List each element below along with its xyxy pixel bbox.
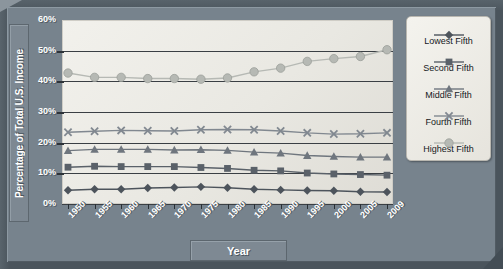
series-fourth-fifth	[64, 126, 390, 138]
series-layer	[62, 20, 393, 204]
legend-item-lowest-fifth[interactable]: Lowest Fifth	[407, 22, 490, 49]
y-tick-mark	[57, 51, 64, 53]
legend-marker-icon	[432, 107, 466, 117]
data-point-marker	[144, 184, 152, 192]
data-point-marker	[356, 188, 364, 196]
x-axis-title: Year	[190, 240, 287, 261]
plot-area	[62, 20, 393, 204]
y-tick-label: 60%	[22, 14, 56, 24]
y-tick-mark	[57, 81, 64, 83]
x-tick-mark	[281, 204, 282, 209]
legend-item-second-fifth[interactable]: Second Fifth	[407, 49, 490, 76]
legend-marker-icon	[432, 53, 466, 63]
data-point-marker	[117, 185, 125, 193]
data-point-marker	[90, 185, 98, 193]
data-point-marker	[90, 73, 98, 81]
data-point-marker	[117, 73, 125, 81]
legend-item-highest-fifth[interactable]: Highest Fifth	[407, 130, 490, 157]
data-point-marker	[444, 30, 452, 38]
data-point-marker	[144, 163, 151, 170]
data-point-marker	[64, 186, 72, 194]
data-point-marker	[91, 163, 98, 170]
data-point-marker	[383, 46, 391, 54]
data-point-marker	[250, 68, 258, 76]
data-point-marker	[303, 186, 311, 194]
chart-legend: Lowest FifthSecond FifthMiddle FifthFour…	[406, 16, 491, 161]
y-tick-label: 30%	[22, 106, 56, 116]
data-point-marker	[357, 171, 364, 178]
series-middle-fifth	[64, 145, 391, 160]
y-tick-mark	[57, 173, 64, 175]
legend-item-fourth-fifth[interactable]: Fourth Fifth	[407, 103, 490, 130]
data-point-marker	[223, 74, 231, 82]
data-point-marker	[197, 183, 205, 191]
data-point-marker	[304, 170, 311, 177]
data-point-marker	[445, 58, 452, 65]
x-tick-mark	[228, 204, 229, 209]
legend-marker-icon	[432, 80, 466, 90]
chart-screenshot: Percentage of Total U.S. Income 0%10%20%…	[0, 0, 503, 269]
data-point-marker	[330, 54, 338, 62]
data-point-marker	[170, 183, 178, 191]
data-point-marker	[144, 74, 152, 82]
data-point-marker	[251, 167, 258, 174]
x-tick-mark	[334, 204, 335, 209]
data-point-marker	[330, 187, 338, 195]
data-point-marker	[171, 163, 178, 170]
data-point-marker	[65, 164, 72, 171]
y-tick-label: 20%	[22, 137, 56, 147]
data-point-marker	[277, 167, 284, 174]
data-point-marker	[197, 75, 205, 83]
legend-marker-icon	[432, 26, 466, 36]
legend-item-middle-fifth[interactable]: Middle Fifth	[407, 76, 490, 103]
series-highest-fifth	[64, 46, 391, 84]
y-tick-label: 50%	[22, 45, 56, 55]
data-point-marker	[276, 186, 284, 194]
data-point-marker	[303, 57, 311, 65]
data-point-marker	[170, 74, 178, 82]
x-tick-mark	[95, 204, 96, 209]
data-point-marker	[383, 188, 391, 196]
data-point-marker	[276, 64, 284, 72]
data-point-marker	[384, 172, 391, 179]
x-tick-mark	[148, 204, 149, 209]
data-point-marker	[64, 69, 72, 77]
y-tick-mark	[57, 112, 64, 114]
y-tick-label: 10%	[22, 167, 56, 177]
data-point-marker	[223, 184, 231, 192]
data-point-marker	[356, 52, 364, 60]
data-point-marker	[198, 164, 205, 171]
data-point-marker	[330, 171, 337, 178]
data-point-marker	[444, 138, 452, 146]
y-tick-label: 0%	[22, 198, 56, 208]
data-point-marker	[224, 165, 231, 172]
data-point-marker	[250, 185, 258, 193]
legend-marker-icon	[432, 134, 466, 144]
series-second-fifth	[65, 163, 391, 179]
x-tick-mark	[201, 204, 202, 209]
series-lowest-fifth	[64, 183, 391, 197]
data-point-marker	[118, 163, 125, 170]
y-tick-mark	[57, 143, 64, 145]
x-axis-title-label: Year	[227, 245, 250, 257]
y-tick-label: 40%	[22, 75, 56, 85]
